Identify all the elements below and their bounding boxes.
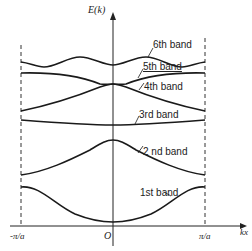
energy-axis-arrow-icon xyxy=(110,12,116,20)
x-axis-label: kx xyxy=(240,228,248,237)
x-right-label: π/a xyxy=(199,232,211,241)
band-2-label: 2 nd band xyxy=(143,147,188,157)
origin-label: O xyxy=(104,231,111,241)
band-6-label: 6th band xyxy=(153,40,192,50)
band-3-label: 3rd band xyxy=(139,110,178,120)
x-left-label: -π/a xyxy=(10,232,25,241)
band-structure-diagram: E(k) kx O -π/a π/a 6th band 5th band 4th… xyxy=(0,0,252,251)
band-5-label: 5th band xyxy=(143,62,182,72)
y-axis-label: E(k) xyxy=(88,5,105,15)
band-4-label: 4th band xyxy=(144,82,183,92)
band-plot xyxy=(0,0,252,251)
band-1-label: 1st band xyxy=(140,188,178,198)
